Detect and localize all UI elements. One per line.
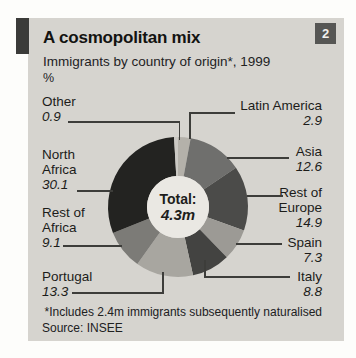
callout-asia-value: 12.6 — [262, 159, 322, 174]
leader-line-italy-drop — [204, 260, 206, 277]
callout-italy: Italy 8.8 — [276, 269, 322, 299]
leader-line-portugal-drop — [162, 272, 164, 293]
callout-other-label: Other — [42, 94, 104, 109]
callout-latin-america-value: 2.9 — [226, 113, 322, 128]
leader-line-rest-of-africa — [63, 245, 122, 247]
callout-rest-of-africa: Rest of Africa 9.1 — [42, 205, 104, 250]
callout-latin-america: Latin America 2.9 — [226, 98, 322, 128]
total-value: 4.3m — [133, 207, 223, 222]
leader-line-north-africa — [77, 190, 113, 192]
callout-portugal: Portugal 13.3 — [42, 269, 104, 299]
callout-north-africa: North Africa 30.1 — [42, 147, 104, 192]
callout-rest-of-africa-label: Rest of Africa — [42, 205, 104, 235]
leader-line-italy — [204, 276, 290, 278]
callout-spain: Spain 7.3 — [270, 235, 322, 265]
callout-rest-of-europe-value: 14.9 — [266, 215, 322, 230]
leader-line-portugal — [72, 292, 164, 294]
callout-rest-of-africa-value: 9.1 — [42, 235, 104, 250]
callout-latin-america-label: Latin America — [226, 98, 322, 113]
source-note: Source: INSEE — [42, 321, 123, 335]
leader-line-asia — [227, 157, 289, 159]
callout-asia: Asia 12.6 — [262, 144, 322, 174]
leader-line-latin-america — [189, 112, 235, 114]
callout-spain-value: 7.3 — [270, 250, 322, 265]
callout-rest-of-europe-label: Rest of Europe — [266, 185, 322, 215]
callout-portugal-label: Portugal — [42, 269, 104, 284]
total-label: Total: — [133, 192, 223, 207]
callout-other: Other 0.9 — [42, 94, 104, 124]
leader-line-other — [68, 121, 180, 123]
leader-line-other-drop — [179, 121, 181, 140]
callout-italy-value: 8.8 — [276, 284, 322, 299]
callout-north-africa-label: North Africa — [42, 147, 104, 177]
callout-rest-of-europe: Rest of Europe 14.9 — [266, 185, 322, 230]
donut-center-total: Total: 4.3m — [133, 192, 223, 222]
leader-line-rest-of-europe — [247, 195, 283, 197]
leader-line-spain — [236, 243, 282, 245]
leader-line-latin-america-drop — [189, 112, 191, 139]
footnote: *Includes 2.4m immigrants subsequently n… — [45, 305, 322, 319]
